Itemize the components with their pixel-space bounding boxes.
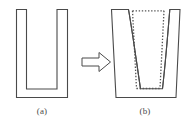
initial-trench-outline	[17, 10, 68, 98]
transformation-arrow-group	[82, 53, 111, 72]
right-arrow-icon	[82, 53, 111, 72]
eroded-trench-outline	[112, 10, 181, 98]
panel-a-group	[17, 10, 68, 98]
figure-container: (a) (b)	[0, 0, 190, 126]
caption-panel-a: (a)	[22, 106, 62, 116]
caption-panel-b: (b)	[125, 106, 165, 116]
panel-b-group	[112, 10, 181, 98]
